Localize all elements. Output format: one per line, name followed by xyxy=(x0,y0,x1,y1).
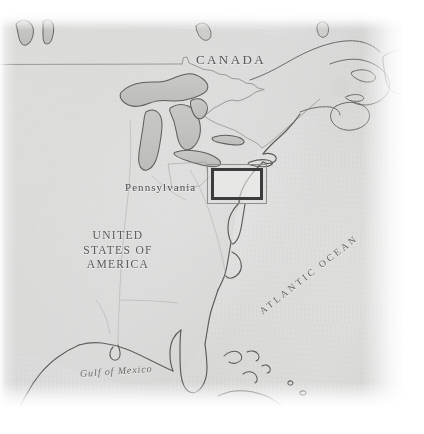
cuba xyxy=(218,391,282,410)
label-canada: CANADA xyxy=(196,52,266,68)
bahamas-4 xyxy=(262,365,270,373)
island-dot-2 xyxy=(300,391,306,395)
label-usa-line-2: STATES OF xyxy=(66,243,170,258)
map-viewport[interactable]: CANADA Pennsylvania UNITED STATES OF AME… xyxy=(0,0,424,434)
inset-detail-rectangle[interactable] xyxy=(207,164,267,204)
inset-detail-rectangle-frame xyxy=(211,168,263,200)
nova-scotia xyxy=(331,102,370,130)
island-dot-1 xyxy=(288,381,293,385)
label-usa-line-3: AMERICA xyxy=(66,257,170,272)
prince-edward-island xyxy=(345,95,364,102)
caribbean-islands xyxy=(218,351,306,410)
northern-lake-small xyxy=(317,22,329,38)
newfoundland xyxy=(383,50,421,94)
bahamas-3 xyxy=(243,372,257,383)
bahamas-1 xyxy=(224,351,242,363)
coast-cape-cod xyxy=(263,153,276,163)
bahamas-2 xyxy=(247,351,259,361)
label-pennsylvania: Pennsylvania xyxy=(125,181,196,193)
mexico-coast xyxy=(16,392,28,428)
label-usa-line-1: UNITED xyxy=(66,228,170,243)
label-united-states-of-america: UNITED STATES OF AMERICA xyxy=(66,228,170,272)
